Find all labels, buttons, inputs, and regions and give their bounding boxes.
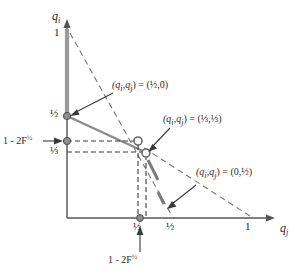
y-tick-third: ⅓ <box>50 145 58 156</box>
y-axis-label: qi <box>52 10 60 25</box>
marker-filled-half-yaxis <box>63 112 70 119</box>
x-axis-label: qj <box>280 222 288 237</box>
x-tick-third: ⅓ <box>133 221 141 232</box>
arrow-line-point-c <box>172 185 196 204</box>
short-gray-stub-lower <box>158 192 164 204</box>
annotation-point-c: (qi,qj) = (0,½) <box>196 167 252 180</box>
diagram-canvas <box>0 0 299 276</box>
x-tick-half: ½ <box>166 221 174 232</box>
arrow-line-point-a <box>76 93 113 112</box>
short-gray-stub-upper <box>148 160 158 180</box>
label-bottom-formula: 1 - 2F½ <box>108 254 137 265</box>
x-axis-arrowhead <box>266 214 275 221</box>
label-left-formula: 1 - 2F½ <box>3 135 32 146</box>
annotation-point-a: (qi,qj) = (½,0) <box>112 80 168 93</box>
marker-filled-third-yaxis <box>63 137 70 144</box>
solid-reaction-line <box>67 116 145 152</box>
arrow-head-point-b <box>148 144 157 152</box>
math-diagram-figure: qi qj 1 ½ ⅓ ⅓ ½ 1 (qi,qj) = (½,0) (qi,qj… <box>0 0 299 276</box>
marker-open-circle-upper <box>134 137 142 145</box>
dashed-line-lower <box>144 148 250 216</box>
y-tick-1: 1 <box>54 27 60 38</box>
arrow-head-point-a <box>70 109 80 116</box>
x-tick-one: 1 <box>245 221 251 232</box>
annotation-point-b: (qi,qj) = (⅓,⅓) <box>163 114 222 127</box>
y-axis-arrowhead <box>63 19 70 28</box>
arrow-line-point-b <box>152 128 170 147</box>
y-tick-half: ½ <box>50 108 58 119</box>
marker-open-circle-intersection <box>142 149 150 157</box>
